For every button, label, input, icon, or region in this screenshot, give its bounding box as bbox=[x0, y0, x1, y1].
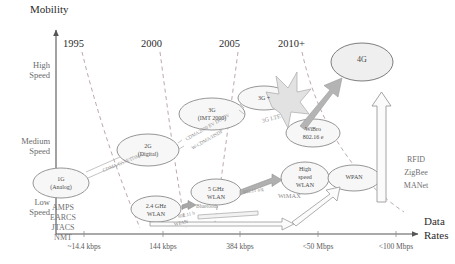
node-label-3g-plus: 3G + bbox=[238, 95, 290, 102]
node-label-3g-line1: 3G bbox=[180, 107, 244, 114]
arrow-bottom-horizontal bbox=[150, 218, 294, 230]
node-label-hswlan-line1: High bbox=[281, 166, 329, 173]
node-label-wpan: WPAN bbox=[328, 174, 380, 181]
y-tick-medium-speed-line1: Medium bbox=[2, 137, 50, 146]
year-label-2010plus: 2010+ bbox=[278, 38, 305, 49]
x-tick-14-4-kbps: ~14.4 kbps bbox=[56, 243, 112, 251]
x-axis-title-line2: Rates bbox=[424, 230, 448, 242]
year-label-2000: 2000 bbox=[141, 38, 162, 49]
node-label-wibro-line1: WiBro bbox=[285, 126, 341, 133]
node-label-2g-line1: 2G bbox=[118, 143, 178, 150]
tech-label-wimax: WiMAX bbox=[278, 192, 301, 199]
node-wibro bbox=[286, 119, 340, 147]
node-label-1g-line1: 1G bbox=[33, 176, 89, 183]
node-label-wibro-line2: 802.16 e bbox=[285, 134, 341, 141]
x-tick-50-mbps: <50 Mbps bbox=[292, 243, 344, 251]
emerging-list-item-manet: MANet bbox=[390, 181, 442, 192]
bluetooth-bar bbox=[198, 211, 258, 219]
x-axis-title-line1: Data bbox=[424, 216, 445, 228]
x-tick-100-mbps: <100 Mbps bbox=[368, 243, 424, 251]
arrow-wlan24-to-wlan5 bbox=[182, 201, 196, 210]
node-label-4g: 4G bbox=[332, 56, 392, 65]
x-tick-384-kbps: 384 kbps bbox=[214, 243, 266, 251]
y-tick-high-speed-line2: Speed bbox=[6, 71, 50, 80]
node-label-hswlan-line3: WLAN bbox=[281, 182, 329, 189]
node-label-1g-line2: (Analog) bbox=[33, 184, 89, 191]
year-label-1995: 1995 bbox=[63, 38, 84, 49]
network-evolution-diagram: Mobility Data Rates 1995 2000 2005 2010+… bbox=[0, 0, 455, 264]
legacy-list-item-nmt: NMT bbox=[40, 233, 86, 244]
y-tick-high-speed-line1: High bbox=[6, 61, 50, 70]
emerging-list-item-zigbee: ZigBee bbox=[390, 168, 442, 179]
y-axis-title: Mobility bbox=[30, 4, 69, 16]
tech-label-bluetooth: Bluetooth bbox=[196, 204, 218, 210]
x-tick-144-kbps: 144 kbps bbox=[137, 243, 189, 251]
node-label-wlan24-line1: 2.4 GHz bbox=[131, 203, 181, 210]
node-1g bbox=[33, 168, 89, 198]
node-label-wlan5-line2: WLAN bbox=[191, 194, 241, 201]
year-label-2005: 2005 bbox=[219, 38, 240, 49]
y-tick-medium-speed-line2: Speed bbox=[2, 147, 50, 156]
node-label-wlan5-line1: 5 GHz bbox=[191, 186, 241, 193]
node-label-hswlan-line2: speed bbox=[281, 174, 329, 181]
node-label-wlan24-line2: WLAN bbox=[131, 211, 181, 218]
emerging-list-item-rfid: RFID bbox=[390, 155, 442, 166]
